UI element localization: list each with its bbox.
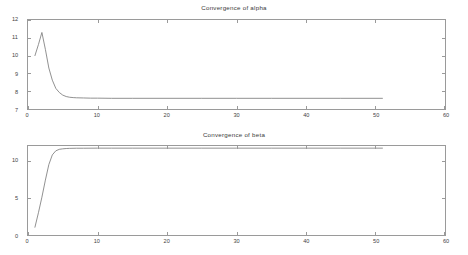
ytick-label-alpha-10: 10 [12, 52, 18, 58]
xtick-beta-30 [237, 232, 238, 235]
ytick-alpha-9 [28, 73, 31, 74]
ytick-right-beta-5 [442, 198, 445, 199]
figure-canvas: Convergence of alpha [0, 0, 468, 255]
xtick-alpha-50 [375, 106, 376, 109]
xtick-beta-60 [444, 232, 445, 235]
xtick-label-beta-10: 10 [94, 238, 100, 244]
xtick-top-alpha-40 [306, 20, 307, 23]
ytick-beta-5 [28, 198, 31, 199]
ytick-right-alpha-8 [442, 91, 445, 92]
ytick-alpha-12 [28, 20, 31, 21]
xtick-label-alpha-40: 40 [303, 112, 309, 118]
chart-title-beta: Convergence of beta [0, 131, 468, 138]
xtick-label-alpha-20: 20 [164, 112, 170, 118]
xtick-label-alpha-0: 0 [25, 112, 28, 118]
xtick-top-alpha-10 [98, 20, 99, 23]
xtick-alpha-10 [98, 106, 99, 109]
xtick-alpha-30 [237, 106, 238, 109]
xtick-beta-10 [98, 232, 99, 235]
plot-area-beta [27, 145, 446, 236]
xtick-label-beta-0: 0 [25, 238, 28, 244]
xtick-label-alpha-10: 10 [94, 112, 100, 118]
series-alpha-line [35, 32, 383, 98]
ytick-right-alpha-11 [442, 38, 445, 39]
xtick-label-beta-60: 60 [443, 238, 449, 244]
ytick-beta-0 [28, 235, 31, 236]
xtick-alpha-20 [167, 106, 168, 109]
xtick-label-beta-30: 30 [233, 238, 239, 244]
beta-curve-svg [28, 146, 445, 235]
xtick-top-beta-20 [167, 146, 168, 149]
ytick-alpha-11 [28, 38, 31, 39]
ytick-right-alpha-9 [442, 73, 445, 74]
xtick-top-alpha-50 [375, 20, 376, 23]
ytick-alpha-10 [28, 56, 31, 57]
xtick-label-beta-20: 20 [164, 238, 170, 244]
xtick-label-alpha-30: 30 [233, 112, 239, 118]
xtick-beta-20 [167, 232, 168, 235]
ytick-label-alpha-8: 8 [15, 89, 18, 95]
ytick-right-beta-10 [442, 161, 445, 162]
series-beta-line [35, 148, 383, 227]
xtick-label-beta-50: 50 [373, 238, 379, 244]
chart-panel-alpha: Convergence of alpha [0, 0, 468, 127]
ytick-label-alpha-11: 11 [12, 34, 18, 40]
ytick-label-alpha-7: 7 [15, 107, 18, 113]
xtick-top-beta-40 [306, 146, 307, 149]
xtick-label-beta-40: 40 [303, 238, 309, 244]
ytick-label-beta-5: 5 [15, 195, 18, 201]
ytick-beta-10 [28, 161, 31, 162]
xtick-beta-40 [306, 232, 307, 235]
xtick-alpha-40 [306, 106, 307, 109]
ytick-alpha-8 [28, 91, 31, 92]
xtick-top-beta-50 [375, 146, 376, 149]
xtick-top-beta-10 [98, 146, 99, 149]
plot-area-alpha [27, 19, 446, 110]
chart-panel-beta: Convergence of beta [0, 127, 468, 254]
xtick-label-alpha-60: 60 [443, 112, 449, 118]
alpha-curve-svg [28, 20, 445, 109]
ytick-alpha-7 [28, 109, 31, 110]
chart-title-alpha: Convergence of alpha [0, 4, 468, 11]
xtick-top-beta-30 [237, 146, 238, 149]
xtick-label-alpha-50: 50 [373, 112, 379, 118]
ytick-label-alpha-12: 12 [12, 16, 18, 22]
ytick-label-beta-10: 10 [12, 157, 18, 163]
ytick-label-alpha-9: 9 [15, 71, 18, 77]
ytick-label-beta-0: 0 [15, 233, 18, 239]
xtick-beta-50 [375, 232, 376, 235]
xtick-alpha-60 [444, 106, 445, 109]
xtick-top-alpha-20 [167, 20, 168, 23]
ytick-right-alpha-10 [442, 56, 445, 57]
xtick-top-alpha-30 [237, 20, 238, 23]
